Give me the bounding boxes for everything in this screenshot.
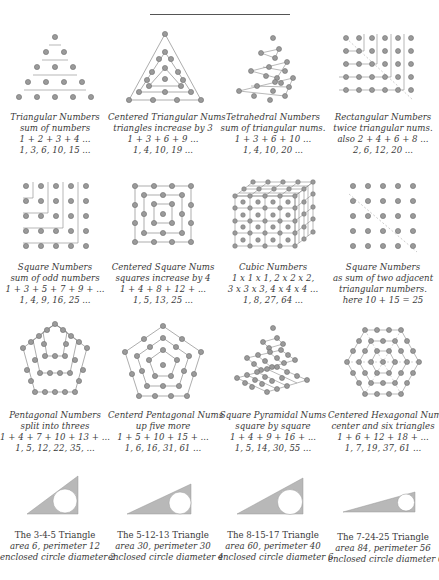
pentagonal-numbers-diagram xyxy=(5,320,105,406)
card-line: square by square xyxy=(218,421,328,432)
cubic-numbers-diagram xyxy=(223,178,323,254)
card-line: 1 + 2 + 3 + 4 ... xyxy=(0,134,110,145)
card-line: 1 x 1 x 1, 2 x 2 x 2, xyxy=(218,273,328,284)
triangle-5-12-13-card: The 5-12-13 Triangle area 30, perimeter … xyxy=(108,474,218,563)
square-pyramidal-diagram xyxy=(223,320,323,406)
centered-triangular-card: Centered Triangular Nums triangles incre… xyxy=(108,28,218,156)
card-line: 1 + 3 + 5 + 7 + 9 + ... xyxy=(0,284,110,295)
card-line: 3 x 3 x 3, 4 x 4 x 4 ... xyxy=(218,284,328,295)
square-as-triangular-sum-diagram xyxy=(333,178,433,254)
card-title: Tetrahedral Numbers xyxy=(218,112,328,123)
card-line: enclosed circle diameter 4 xyxy=(108,552,218,563)
card-title: The 3-4-5 Triangle xyxy=(0,530,110,541)
square-pyramidal-card: Square Pyramidal Nums square by square 1… xyxy=(218,320,328,454)
card-title: Centerd Pentagonal Nums xyxy=(108,410,218,421)
card-title: Rectangular Numbers xyxy=(328,112,438,123)
card-line: 1 + 3 + 6 + 9 ... xyxy=(108,134,218,145)
rectangular-numbers-diagram xyxy=(333,28,433,104)
card-title: Centered Square Nums xyxy=(108,262,218,273)
centered-hexagonal-diagram xyxy=(333,320,433,406)
triangle-7-24-25-card: The 7-24-25 Triangle area 84, perimeter … xyxy=(328,474,438,565)
card-line: 1, 8, 27, 64 ... xyxy=(218,295,328,306)
card-title: Cubic Numbers xyxy=(218,262,328,273)
card-line: twice triangular nums. xyxy=(328,123,438,134)
centered-triangular-diagram xyxy=(113,28,213,104)
square-numbers-card: Square Numbers sum of odd numbers 1 + 3 … xyxy=(0,178,110,306)
card-line: area 6, perimeter 12 xyxy=(0,541,110,552)
centered-pentagonal-diagram xyxy=(113,320,213,406)
card-line: 1 + 5 + 10 + 15 + ... xyxy=(108,432,218,443)
card-line: enclosed circle diameter 6 xyxy=(328,554,438,565)
card-line: triangular numbers. xyxy=(328,284,438,295)
card-title: Centered Triangular Nums xyxy=(108,112,218,123)
card-line: sum of numbers xyxy=(0,123,110,134)
card-line: split into threes xyxy=(0,421,110,432)
card-line: area 84, perimeter 56 xyxy=(328,543,438,554)
triangle-3-4-5-diagram xyxy=(5,474,105,518)
tetrahedral-numbers-card: Tetrahedral Numbers sum of triangular nu… xyxy=(218,28,328,156)
triangle-3-4-5-card: The 3-4-5 Triangle area 6, perimeter 12 … xyxy=(0,474,110,563)
card-line: as sum of two adjacent xyxy=(328,273,438,284)
card-line: 1, 3, 6, 10, 15 ... xyxy=(0,145,110,156)
card-line: 1, 7, 19, 37, 61 ... xyxy=(328,443,438,454)
card-line: 1 + 4 + 7 + 10 + 13 + ... xyxy=(0,432,110,443)
card-title: The 5-12-13 Triangle xyxy=(108,530,218,541)
card-line: here 10 + 15 = 25 xyxy=(328,295,438,306)
card-line: center and six triangles xyxy=(328,421,438,432)
card-title: Triangular Numbers xyxy=(0,112,110,123)
card-line: 1 + 6 + 12 + 18 + ... xyxy=(328,432,438,443)
card-line: area 30, perimeter 30 xyxy=(108,541,218,552)
card-title: Pentagonal Numbers xyxy=(0,410,110,421)
card-line: sum of triangular nums. xyxy=(218,123,328,134)
card-title: Centered Hexagonal Nums xyxy=(328,410,438,421)
card-title: The 8-15-17 Triangle xyxy=(218,530,328,541)
card-line: 1, 5, 13, 25 ... xyxy=(108,295,218,306)
card-line: triangles increase by 3 xyxy=(108,123,218,134)
centered-pentagonal-card: Centerd Pentagonal Nums up five more 1 +… xyxy=(108,320,218,454)
cubic-numbers-card: Cubic Numbers 1 x 1 x 1, 2 x 2 x 2, 3 x … xyxy=(218,178,328,306)
card-line: 1 + 4 + 9 + 16 + ... xyxy=(218,432,328,443)
triangle-8-15-17-card: The 8-15-17 Triangle area 60, perimeter … xyxy=(218,474,328,563)
pentagonal-numbers-card: Pentagonal Numbers split into threes 1 +… xyxy=(0,320,110,454)
card-line: 2, 6, 12, 20 ... xyxy=(328,145,438,156)
triangular-numbers-diagram xyxy=(5,28,105,104)
card-line: 1, 6, 16, 31, 61 ... xyxy=(108,443,218,454)
card-line: 1, 4, 10, 20 ... xyxy=(218,145,328,156)
card-line: squares increase by 4 xyxy=(108,273,218,284)
centered-hexagonal-card: Centered Hexagonal Nums center and six t… xyxy=(328,320,438,454)
card-line: 1, 4, 10, 19 ... xyxy=(108,145,218,156)
header-rule xyxy=(150,14,290,15)
card-line: enclosed circle diameter 2 xyxy=(0,552,110,563)
card-line: area 60, perimeter 40 xyxy=(218,541,328,552)
triangle-8-15-17-diagram xyxy=(223,474,323,518)
square-numbers-diagram xyxy=(5,178,105,254)
triangle-7-24-25-diagram xyxy=(333,474,433,518)
triangle-5-12-13-diagram xyxy=(113,474,213,518)
card-line: 1, 5, 12, 22, 35, ... xyxy=(0,443,110,454)
card-line: also 2 + 4 + 6 + 8 ... xyxy=(328,134,438,145)
card-line: 1 + 3 + 6 + 10 ... xyxy=(218,134,328,145)
card-line: sum of odd numbers xyxy=(0,273,110,284)
card-title: The 7-24-25 Triangle xyxy=(328,532,438,543)
card-line: enclosed circle diameter 6 xyxy=(218,552,328,563)
card-line: 1, 4, 9, 16, 25 ... xyxy=(0,295,110,306)
square-as-triangular-sum-card: Square Numbers as sum of two adjacent tr… xyxy=(328,178,438,306)
card-line: 1 + 4 + 8 + 12 + ... xyxy=(108,284,218,295)
card-title: Square Numbers xyxy=(328,262,438,273)
triangular-numbers-card: Triangular Numbers sum of numbers 1 + 2 … xyxy=(0,28,110,156)
rectangular-numbers-card: Rectangular Numbers twice triangular num… xyxy=(328,28,438,156)
card-line: 1, 5, 14, 30, 55 ... xyxy=(218,443,328,454)
card-line: up five more xyxy=(108,421,218,432)
card-title: Square Numbers xyxy=(0,262,110,273)
tetrahedral-numbers-diagram xyxy=(223,28,323,104)
centered-square-card: Centered Square Nums squares increase by… xyxy=(108,178,218,306)
card-title: Square Pyramidal Nums xyxy=(218,410,328,421)
centered-square-diagram xyxy=(113,178,213,254)
